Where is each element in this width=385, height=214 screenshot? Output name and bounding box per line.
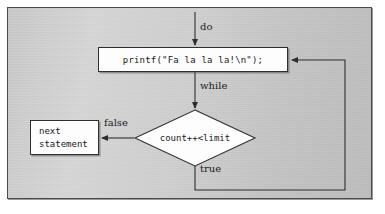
next-statement-line-2: statement: [39, 138, 88, 151]
edge-label-false: false: [104, 117, 128, 128]
flowchart-canvas: [0, 0, 385, 214]
edge-label-do: do: [200, 21, 212, 32]
edge-label-true: true: [200, 163, 221, 174]
condition-expression-label: count++<limit: [135, 129, 255, 147]
next-statement-box: next statement: [30, 120, 99, 155]
printf-statement-box: printf("Fa la la la!\n");: [98, 47, 288, 72]
printf-statement-text: printf("Fa la la la!\n");: [123, 55, 263, 65]
next-statement-line-1: next: [39, 125, 61, 138]
flowchart-figure: printf("Fa la la la!\n"); count++<limit …: [0, 0, 385, 214]
edge-label-while: while: [200, 80, 227, 91]
